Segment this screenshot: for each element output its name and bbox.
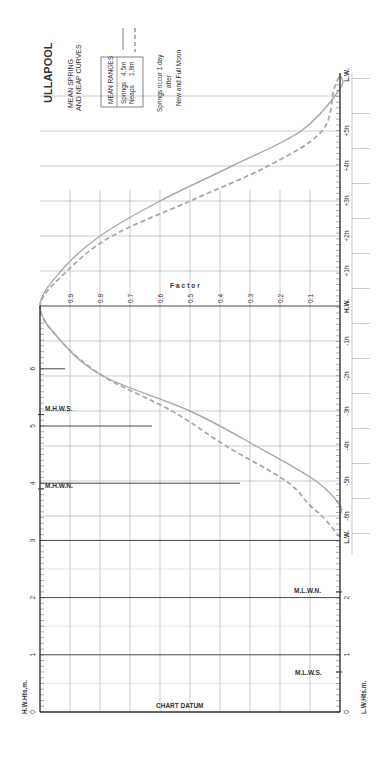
time-tick-label: -2h bbox=[343, 371, 350, 381]
spring-note-3: New and Full Moon bbox=[175, 50, 182, 106]
time-tick-label: +4h bbox=[343, 160, 350, 171]
time-tick-label: +3h bbox=[343, 195, 350, 206]
hw-heights-axis-label: H.W.Hts.m. bbox=[21, 680, 28, 714]
lw-height-tick-label: 1 bbox=[343, 653, 350, 657]
legend-neaps-label: Neaps bbox=[128, 84, 136, 104]
time-tick-label: -6h bbox=[343, 511, 350, 521]
mlwn-label: M.L.W.N. bbox=[294, 587, 321, 594]
lw-height-tick-label: 2 bbox=[343, 595, 350, 599]
chart-axes: 0.10.20.30.40.50.60.70.80.9L.W.+5h+4h+3h… bbox=[29, 68, 370, 714]
time-tick-label: +1h bbox=[343, 265, 350, 276]
legend: MEAN RANGES Springs 4.5m Neaps 1.8m bbox=[101, 28, 143, 107]
factor-tick-label: 0.8 bbox=[97, 294, 104, 303]
chart-subtitle-2: AND NEAP CURVES bbox=[75, 44, 82, 111]
spring-note-1: Springs occur 1 day bbox=[156, 54, 164, 112]
time-tick-label: H.W. bbox=[343, 299, 350, 313]
chart-subtitle-1: MEAN SPRING bbox=[67, 59, 74, 108]
legend-springs-label: Springs bbox=[120, 81, 128, 104]
mhws-label: M.H.W.S. bbox=[45, 405, 73, 412]
hw-height-tick-label: 6 bbox=[29, 367, 36, 371]
factor-tick-label: 0.2 bbox=[277, 294, 284, 303]
chart-grid bbox=[40, 96, 340, 712]
time-tick-label: -5h bbox=[343, 476, 350, 486]
legend-header: MEAN RANGES bbox=[107, 55, 114, 104]
factor-axis-label: Factor bbox=[170, 282, 202, 289]
tidal-curve-chart: 0.10.20.30.40.50.60.70.80.9L.W.+5h+4h+3h… bbox=[0, 0, 389, 768]
hw-height-tick-label: 2 bbox=[29, 595, 36, 599]
time-tick-label: L.W. bbox=[343, 68, 350, 82]
chart-title: ULLAPOOL bbox=[42, 42, 54, 103]
legend-springs-range: 4.5m bbox=[120, 62, 127, 76]
hw-height-tick-label: 1 bbox=[29, 653, 36, 657]
factor-tick-label: 0.6 bbox=[157, 294, 164, 303]
time-tick-label: -4h bbox=[343, 441, 350, 451]
mhwn-label: M.H.W.N. bbox=[45, 482, 73, 489]
lw-heights-axis-label: L.W.Hts.m. bbox=[360, 681, 367, 714]
hw-height-tick-label: 0 bbox=[29, 710, 36, 714]
time-tick-label: +5h bbox=[343, 125, 350, 136]
mlws-label: M.L.W.S. bbox=[295, 669, 322, 676]
spring-note-2: after bbox=[165, 74, 172, 88]
time-tick-label: +2h bbox=[343, 230, 350, 241]
factor-tick-label: 0.3 bbox=[247, 294, 254, 303]
time-tick-label: L.W. bbox=[343, 530, 350, 544]
hw-height-tick-label: 4 bbox=[29, 481, 36, 485]
hw-height-tick-label: 5 bbox=[29, 424, 36, 428]
lw-height-tick-label: 0 bbox=[343, 710, 350, 714]
factor-tick-label: 0.9 bbox=[67, 294, 74, 303]
legend-neaps-range: 1.8m bbox=[128, 62, 135, 76]
chart-datum-label: CHART DATUM bbox=[156, 702, 204, 709]
factor-tick-label: 0.1 bbox=[307, 294, 314, 303]
time-tick-label: -1h bbox=[343, 336, 350, 346]
factor-tick-label: 0.4 bbox=[217, 294, 224, 303]
factor-tick-label: 0.7 bbox=[127, 294, 134, 303]
factor-tick-label: 0.5 bbox=[187, 294, 194, 303]
time-tick-label: -3h bbox=[343, 406, 350, 416]
hw-height-tick-label: 3 bbox=[29, 538, 36, 542]
